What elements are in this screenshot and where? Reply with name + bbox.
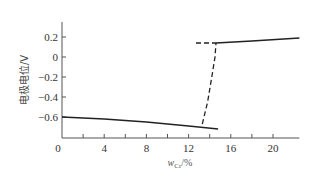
x-tick-label: 12 [183,142,194,154]
x-tick-label: 20 [268,142,280,154]
y-tick-label: 0 [53,51,59,63]
y-tick-label: −0.4 [38,91,58,103]
x-tick-label: 0 [55,142,61,154]
x-axis-label: wCr/% [168,157,193,170]
y-tick-label: −0.6 [38,111,58,123]
y-tick-label: −0.2 [38,71,58,83]
data-series [62,38,299,129]
axes: 0481216200.20−0.2−0.4−0.6 [38,22,299,154]
x-tick-label: 16 [225,142,237,154]
y-tick-label: 0.2 [44,31,58,43]
x-tick-label: 8 [144,142,150,154]
series-transition [202,43,216,124]
y-axis-label: 电极电位/V [18,55,30,105]
series-passive-region [216,38,299,43]
series-active-region [62,117,218,129]
chart: 0481216200.20−0.2−0.4−0.6 电极电位/V wCr/% [0,0,315,178]
x-tick-label: 4 [101,142,107,154]
